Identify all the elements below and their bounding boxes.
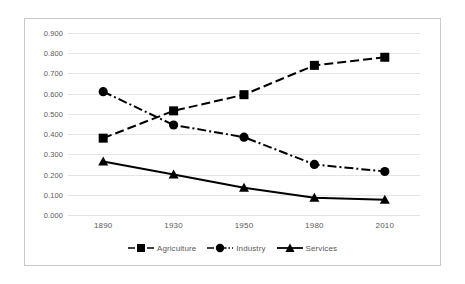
chart-legend: Agriculture Industry Services	[25, 243, 440, 253]
data-point-marker	[380, 53, 389, 62]
legend-swatch-agriculture	[128, 243, 154, 253]
y-axis-tick-label: 0.700	[44, 69, 63, 78]
data-point-marker	[310, 160, 319, 169]
chart-figure: 0.9000.8000.7000.6000.5000.4000.3000.200…	[24, 18, 441, 266]
data-point-marker	[169, 120, 178, 129]
data-series-layer	[68, 33, 420, 215]
series-line-services	[103, 161, 385, 199]
data-point-marker	[380, 167, 389, 176]
y-axis-tick-label: 0.200	[44, 170, 63, 179]
y-axis-tick-label: 0.800	[44, 49, 63, 58]
y-axis-tick-label: 0.500	[44, 109, 63, 118]
y-axis-tick-label: 0.100	[44, 190, 63, 199]
data-point-marker	[99, 134, 108, 143]
plot-area: 0.9000.8000.7000.6000.5000.4000.3000.200…	[68, 33, 420, 215]
data-point-marker	[99, 87, 108, 96]
x-axis-tick-label: 1930	[164, 221, 183, 230]
series-line-industry	[103, 92, 385, 172]
data-point-marker	[169, 106, 178, 115]
legend-label-services: Services	[306, 244, 337, 253]
y-axis-tick-label: 0.600	[44, 89, 63, 98]
y-axis-tick-label: 0.000	[44, 211, 63, 220]
data-point-marker	[310, 61, 319, 70]
legend-label-agriculture: Agriculture	[157, 244, 196, 253]
y-axis-tick-label: 0.400	[44, 130, 63, 139]
x-axis-tick-label: 1890	[94, 221, 113, 230]
y-axis-tick-label: 0.300	[44, 150, 63, 159]
legend-item-agriculture[interactable]: Agriculture	[128, 243, 196, 253]
legend-item-services[interactable]: Services	[277, 243, 337, 253]
data-point-marker	[98, 156, 108, 165]
y-axis-tick-label: 0.900	[44, 29, 63, 38]
x-axis-tick-label: 1980	[305, 221, 324, 230]
x-axis-tick-label: 1950	[235, 221, 254, 230]
data-point-marker	[239, 133, 248, 142]
legend-swatch-services	[277, 243, 303, 253]
legend-item-industry[interactable]: Industry	[207, 243, 265, 253]
data-point-marker	[240, 90, 249, 99]
legend-swatch-industry	[207, 243, 233, 253]
gridline	[68, 215, 420, 216]
legend-label-industry: Industry	[236, 244, 265, 253]
x-axis-tick-label: 2010	[375, 221, 394, 230]
